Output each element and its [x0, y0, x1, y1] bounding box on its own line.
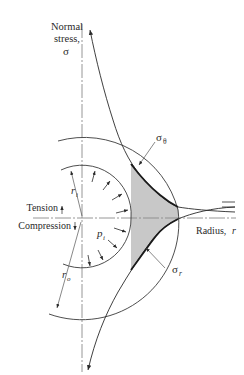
sigma-theta-label: σ θ	[156, 131, 167, 146]
hoop-stress-curve	[90, 30, 235, 212]
svg-text:Radius,: Radius,	[196, 225, 226, 236]
inner-radius-label: r i	[71, 185, 78, 199]
vertical-axis-label-line2: stress,	[54, 33, 80, 44]
internal-pressure-label: p i	[96, 227, 105, 242]
compression-label: Compression	[18, 220, 71, 231]
svg-text:r: r	[179, 269, 182, 278]
svg-text:σ: σ	[156, 131, 162, 143]
stress-shaded-region	[131, 164, 179, 270]
svg-text:p: p	[96, 227, 103, 239]
svg-text:r: r	[232, 225, 236, 236]
inner-radius-arc	[61, 165, 131, 268]
horizontal-axis-label: Radius, r	[196, 225, 236, 236]
vertical-axis-label-line1: Normal	[51, 21, 83, 32]
vertical-axis-symbol: σ	[63, 45, 69, 57]
tension-label: Tension	[26, 202, 58, 213]
outer-radius-dimension	[57, 222, 81, 308]
svg-text:σ: σ	[172, 263, 178, 275]
svg-text:i: i	[103, 234, 105, 242]
sigma-theta-leader	[139, 142, 155, 165]
stress-distribution-diagram: Normal stress, σ Tension Compression Rad…	[0, 0, 244, 375]
svg-text:θ: θ	[163, 137, 167, 146]
sigma-r-leader	[146, 248, 165, 268]
sigma-r-label: σ r	[172, 263, 182, 278]
svg-text:i: i	[76, 191, 78, 199]
svg-text:o: o	[67, 275, 71, 283]
outer-radius-label: r o	[62, 269, 71, 283]
